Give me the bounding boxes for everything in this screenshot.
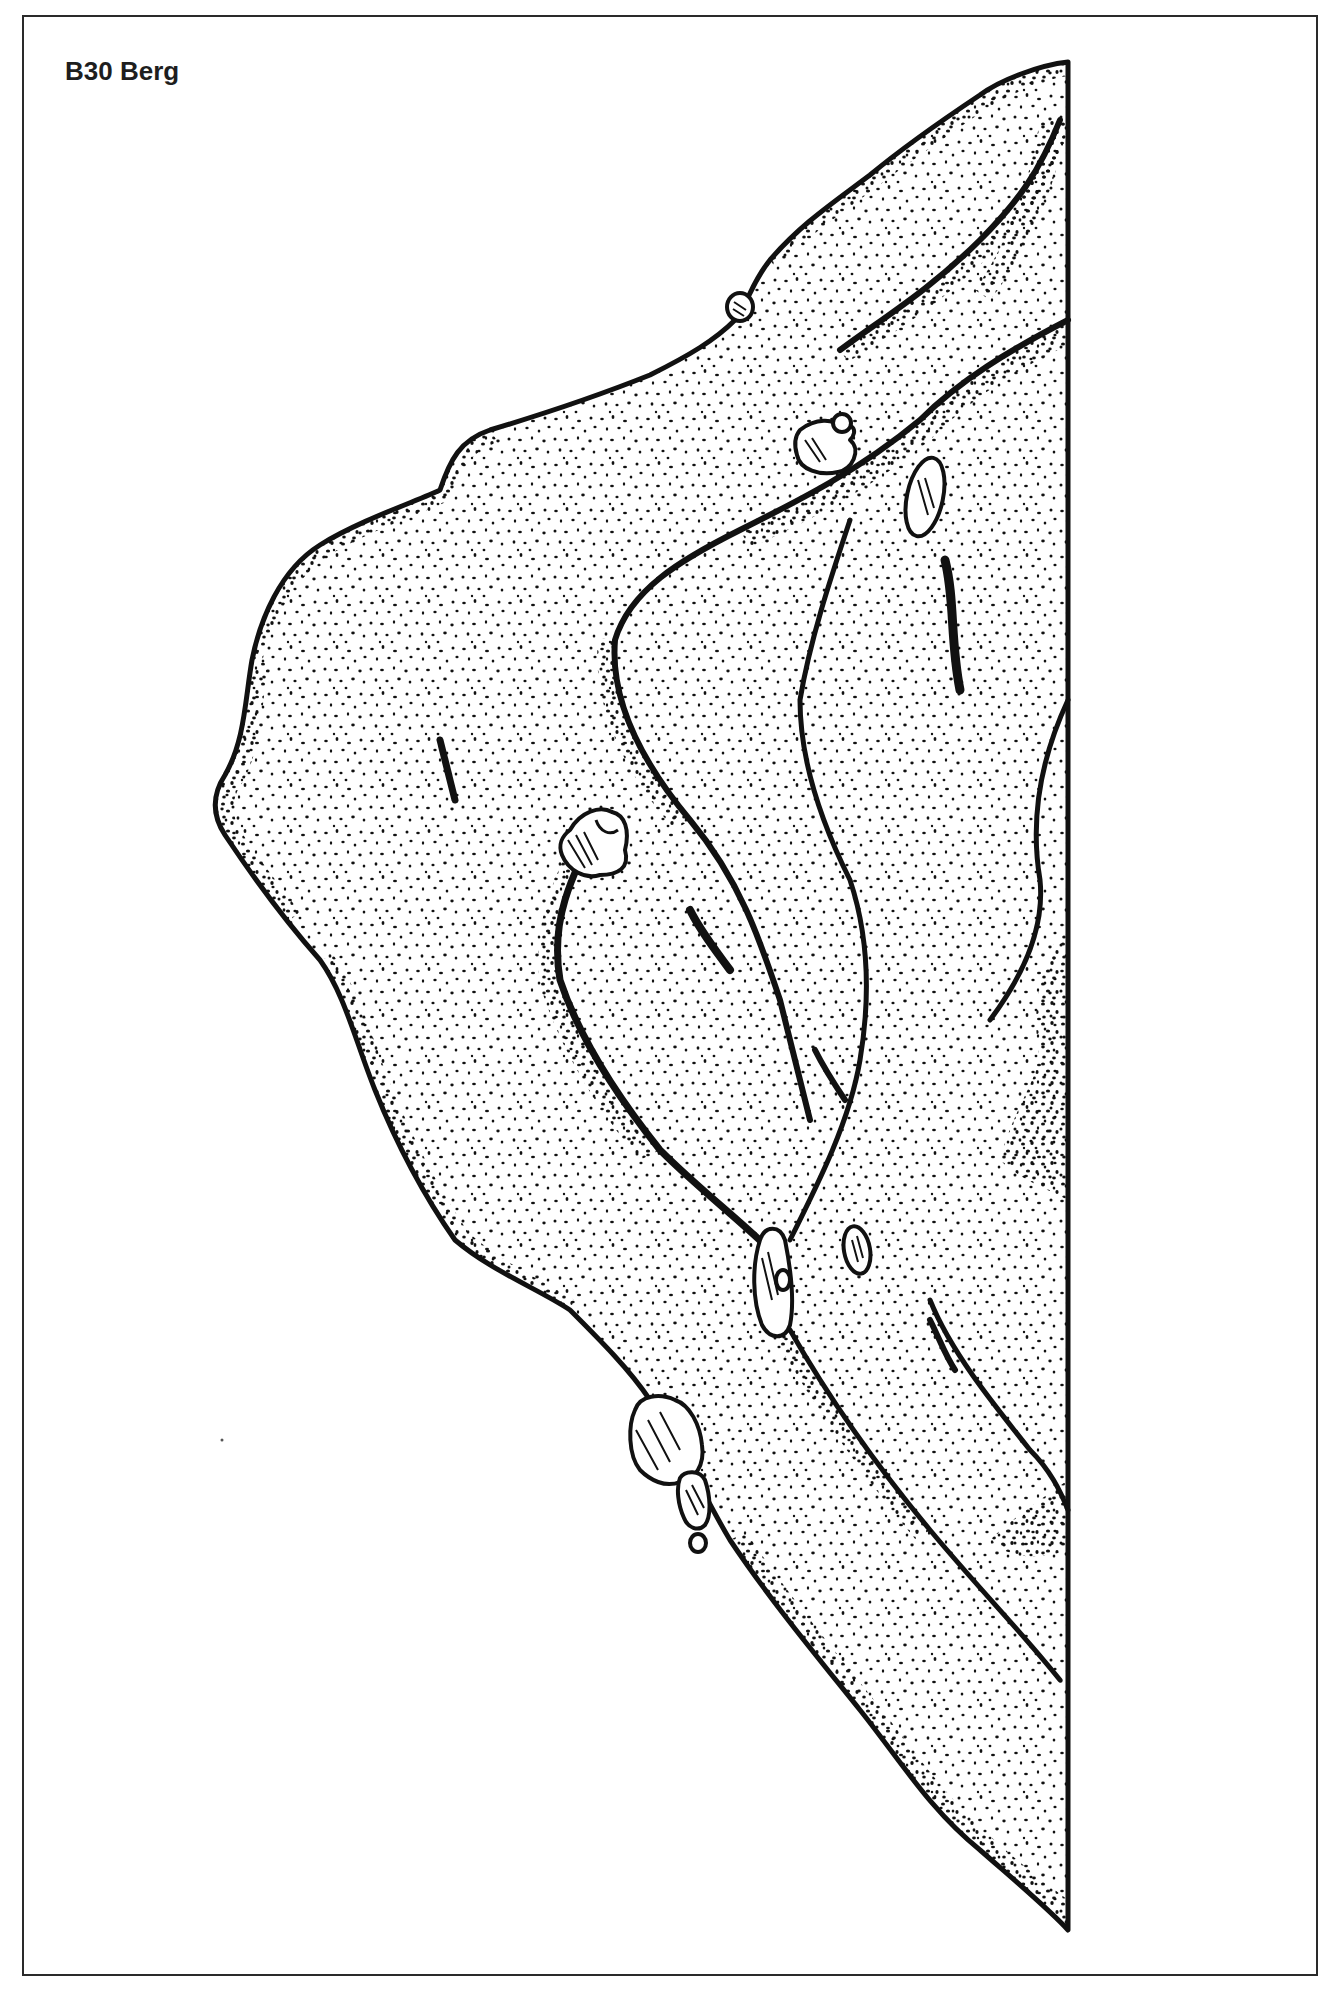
boulder-bottom-small: [678, 1472, 710, 1528]
boulder-lower-middle: [754, 1229, 792, 1337]
stray-speck: [221, 1439, 224, 1442]
rock-illustration: [0, 0, 1339, 1999]
boulder-bottom-tiny: [690, 1534, 706, 1552]
pebble-top: [727, 293, 753, 321]
